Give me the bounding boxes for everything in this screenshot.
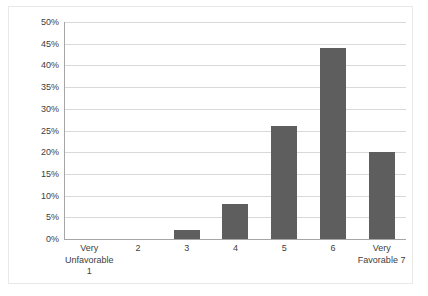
y-axis-tick-label: 10% [13, 192, 59, 201]
bar-slot [65, 22, 114, 239]
y-axis-tick-label: 5% [13, 213, 59, 222]
x-axis-label-line: Unfavorable [65, 255, 114, 267]
y-axis-tick-label: 25% [13, 127, 59, 136]
x-axis-label-line: Very [357, 243, 406, 255]
y-axis-tick-label: 20% [13, 148, 59, 157]
x-axis-label-line: 2 [114, 243, 163, 255]
y-axis-tick-label: 0% [13, 235, 59, 244]
bar-slot [309, 22, 358, 239]
gridline [65, 239, 406, 240]
bar-slot [357, 22, 406, 239]
bar[interactable] [320, 48, 346, 239]
x-axis-label-line: Favorable 7 [357, 255, 406, 267]
bar-slot [260, 22, 309, 239]
chart-plot-wrapper: 0%5%10%15%20%25%30%35%40%45%50% VeryUnfa… [9, 7, 412, 283]
bar-slot [211, 22, 260, 239]
y-axis-tick-labels: 0%5%10%15%20%25%30%35%40%45%50% [9, 22, 59, 239]
y-axis-tick-label: 40% [13, 61, 59, 70]
chart-container: 0%5%10%15%20%25%30%35%40%45%50% VeryUnfa… [8, 6, 413, 284]
x-axis-category-label: 5 [260, 243, 309, 255]
x-axis-category-label: VeryUnfavorable1 [65, 243, 114, 278]
bar[interactable] [174, 230, 200, 239]
bar[interactable] [369, 152, 395, 239]
y-axis-tick-label: 50% [13, 18, 59, 27]
y-axis-tick-label: 15% [13, 170, 59, 179]
x-axis-category-label: 4 [211, 243, 260, 255]
y-axis-tick-label: 35% [13, 83, 59, 92]
y-axis-tick-label: 30% [13, 105, 59, 114]
x-axis-category-labels: VeryUnfavorable123456VeryFavorable 7 [65, 243, 406, 283]
y-axis-tick-label: 45% [13, 40, 59, 49]
x-axis-category-label: 3 [162, 243, 211, 255]
x-axis-category-label: VeryFavorable 7 [357, 243, 406, 266]
bar-slot [114, 22, 163, 239]
x-axis-label-line: 6 [309, 243, 358, 255]
plot-area [65, 22, 406, 239]
x-axis-category-label: 2 [114, 243, 163, 255]
x-axis-category-label: 6 [309, 243, 358, 255]
x-axis-label-line: 3 [162, 243, 211, 255]
x-axis-label-line: 1 [65, 266, 114, 278]
bar[interactable] [222, 204, 248, 239]
bar-slot [162, 22, 211, 239]
x-axis-label-line: 4 [211, 243, 260, 255]
x-axis-label-line: Very [65, 243, 114, 255]
bar[interactable] [271, 126, 297, 239]
x-axis-label-line: 5 [260, 243, 309, 255]
